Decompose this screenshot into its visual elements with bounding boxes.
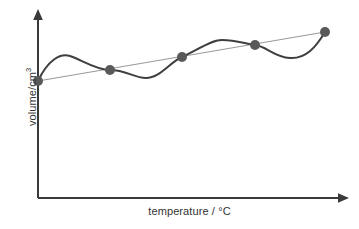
data-point-marker bbox=[105, 65, 115, 75]
x-axis bbox=[38, 193, 349, 203]
data-point-marker bbox=[320, 27, 330, 37]
data-point-marker bbox=[177, 52, 187, 62]
chart-plot-area bbox=[0, 0, 359, 229]
data-point-marker bbox=[250, 40, 260, 50]
y-axis-label-text: volume/cm bbox=[26, 72, 38, 126]
chart-container: volume/cm3 temperature / °C bbox=[0, 0, 359, 229]
y-axis-label-superscript: 3 bbox=[24, 68, 33, 72]
x-axis-label: temperature / °C bbox=[0, 205, 359, 217]
y-axis-arrow-icon bbox=[33, 9, 43, 20]
y-axis-label: volume/cm3 bbox=[26, 68, 38, 126]
x-axis-arrow-icon bbox=[338, 193, 349, 203]
